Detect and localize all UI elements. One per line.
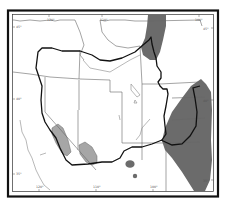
tick-label-right-35: 35° bbox=[203, 179, 209, 183]
tick-label-right-40: 40° bbox=[203, 99, 209, 103]
tick-label-left-40: 40° bbox=[16, 97, 22, 101]
tick-label-top-120: 120° bbox=[47, 18, 55, 22]
tick-label-left-35: 35° bbox=[16, 172, 22, 176]
tick-label-right-45: 45° bbox=[203, 27, 209, 31]
dark-shaded-regions bbox=[125, 15, 212, 191]
tick-label-top-110: 110° bbox=[100, 18, 108, 22]
tick-label-top-100: 100° bbox=[195, 18, 203, 22]
tick-label-left-45: 45° bbox=[16, 25, 22, 29]
tick-label-bottom-100: 100° bbox=[150, 185, 158, 189]
tick-label-bottom-120: 120° bbox=[36, 185, 44, 189]
range-map: 120° 110° 100° 45° 40° 35° 120° 110° 100… bbox=[0, 0, 226, 208]
tick-label-bottom-110: 110° bbox=[93, 185, 101, 189]
